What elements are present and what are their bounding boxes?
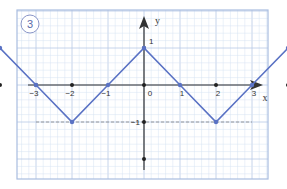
x-tick-label: 0 bbox=[148, 89, 153, 98]
function-graph: 3xy−3−2−101231−1 bbox=[0, 0, 287, 189]
y-axis-label: y bbox=[155, 15, 160, 26]
x-axis-dot bbox=[214, 83, 218, 87]
x-tick-label: 1 bbox=[180, 89, 185, 98]
curve-point bbox=[106, 83, 110, 87]
x-tick-label: −3 bbox=[29, 89, 39, 98]
grid bbox=[17, 10, 268, 179]
y-tick-label: −1 bbox=[131, 118, 141, 127]
x-tick-label: 3 bbox=[252, 89, 257, 98]
x-axis-dot bbox=[0, 83, 2, 87]
x-axis-dot bbox=[142, 83, 146, 87]
figure: 3xy−3−2−101231−1 bbox=[0, 0, 287, 189]
x-axis-dot bbox=[286, 83, 287, 87]
curve-point bbox=[214, 120, 218, 124]
y-axis-dot bbox=[142, 120, 146, 124]
problem-number: 3 bbox=[27, 18, 33, 30]
curve-point bbox=[70, 120, 74, 124]
x-axis-dot bbox=[70, 83, 74, 87]
curve-point bbox=[34, 83, 38, 87]
x-tick-label: 2 bbox=[216, 89, 221, 98]
curve-point bbox=[142, 46, 146, 50]
y-axis-dot bbox=[142, 157, 146, 161]
curve-point bbox=[178, 83, 182, 87]
y-tick-label: 1 bbox=[149, 37, 154, 46]
x-tick-label: −2 bbox=[65, 89, 75, 98]
x-axis-label: x bbox=[263, 92, 268, 103]
curve-point bbox=[250, 83, 254, 87]
